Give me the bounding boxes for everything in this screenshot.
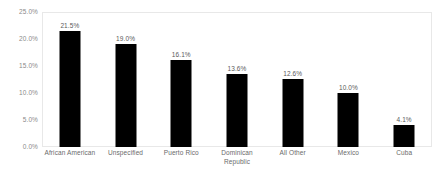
bar-data-label: 10.0%: [339, 84, 358, 91]
y-axis-tick-label: 5.0%: [0, 116, 38, 123]
x-axis-tick-label: Unspecified: [98, 149, 154, 158]
bar-group: 13.6%: [209, 12, 265, 147]
bar-group: 4.1%: [376, 12, 432, 147]
x-axis-tick-label: Dominican Republic: [209, 149, 265, 166]
bars-layer: 21.5%19.0%16.1%13.6%12.6%10.0%4.1%: [42, 12, 432, 147]
bar: [338, 93, 359, 147]
bar-chart: 25.0%20.0%15.0%10.0%5.0%0.0% 21.5%19.0%1…: [0, 0, 439, 186]
x-axis-tick-label: Puerto Rico: [153, 149, 209, 158]
y-axis-tick-label: 0.0%: [0, 143, 38, 150]
y-axis-tick-label: 20.0%: [0, 35, 38, 42]
bar-data-label: 19.0%: [116, 35, 135, 42]
bar-group: 21.5%: [42, 12, 98, 147]
bar-group: 16.1%: [153, 12, 209, 147]
x-axis-tick-label: All Other: [265, 149, 321, 158]
bar: [115, 44, 136, 147]
bar-data-label: 16.1%: [172, 51, 191, 58]
y-axis-tick-label: 10.0%: [0, 89, 38, 96]
bar-group: 12.6%: [265, 12, 321, 147]
bar-data-label: 12.6%: [283, 70, 302, 77]
x-axis-tick-label: African American: [42, 149, 98, 158]
bar-group: 19.0%: [98, 12, 154, 147]
y-axis-tick-label: 25.0%: [0, 8, 38, 15]
bar-data-label: 4.1%: [397, 116, 412, 123]
bar: [282, 79, 303, 147]
bar-data-label: 13.6%: [228, 65, 247, 72]
bar-group: 10.0%: [321, 12, 377, 147]
y-axis-tick-label: 15.0%: [0, 62, 38, 69]
bar-data-label: 21.5%: [60, 22, 79, 29]
bar: [394, 125, 415, 147]
bar: [59, 31, 80, 147]
x-axis-tick-label: Cuba: [376, 149, 432, 158]
bar: [226, 74, 247, 147]
bar: [171, 60, 192, 147]
x-axis-tick-label: Mexico: [321, 149, 377, 158]
x-axis: African AmericanUnspecifiedPuerto RicoDo…: [42, 149, 432, 183]
